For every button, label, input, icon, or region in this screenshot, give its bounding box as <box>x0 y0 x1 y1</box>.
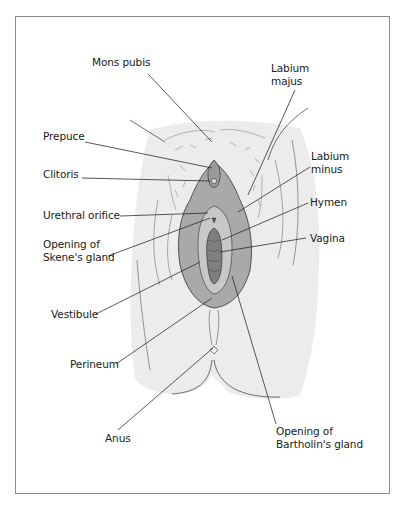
label-opening-bartholins: Opening of Bartholin's gland <box>276 425 363 451</box>
label-labium-majus: Labium majus <box>271 62 309 88</box>
label-anus: Anus <box>105 432 131 445</box>
label-urethral-orifice: Urethral orifice <box>43 209 120 222</box>
label-labium-minus: Labium minus <box>311 150 349 176</box>
label-vagina: Vagina <box>310 232 345 245</box>
label-mons-pubis: Mons pubis <box>92 56 150 69</box>
label-clitoris: Clitoris <box>43 168 79 181</box>
label-hymen: Hymen <box>310 196 347 209</box>
label-prepuce: Prepuce <box>43 130 85 143</box>
label-opening-skenes: Opening of Skene's gland <box>43 238 115 264</box>
label-perineum: Perineum <box>70 358 119 371</box>
label-vestibule: Vestibule <box>51 308 98 321</box>
clitoris-shape <box>211 178 216 183</box>
